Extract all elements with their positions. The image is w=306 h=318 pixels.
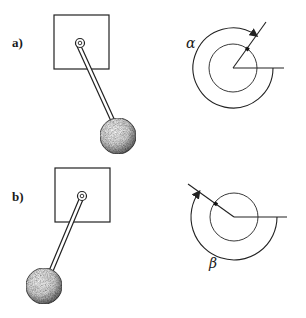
pendulum-b-bob bbox=[26, 268, 62, 304]
panel-a: a) bbox=[12, 15, 136, 154]
angle-beta-symbol: β bbox=[208, 255, 217, 271]
panel-b: b) bbox=[12, 168, 110, 304]
angle-alpha-symbol: α bbox=[186, 35, 196, 51]
angle-b-rod-ray bbox=[188, 184, 234, 217]
pendulum-a-bob bbox=[100, 118, 136, 154]
angle-diagram-b: β bbox=[188, 184, 287, 271]
pendulum-a-rod bbox=[78, 44, 113, 121]
angle-b-arc-arrow bbox=[191, 192, 277, 260]
angle-a-rod-ray bbox=[233, 22, 266, 68]
panel-b-label: b) bbox=[12, 189, 24, 204]
pendulum-b-rod bbox=[51, 197, 82, 271]
angle-diagram-a: α bbox=[186, 22, 284, 108]
panel-a-label: a) bbox=[12, 35, 23, 50]
pendulum-angle-diagram: a) α b) bbox=[0, 0, 306, 318]
pendulum-a-pivot bbox=[76, 39, 85, 48]
pendulum-b-pivot bbox=[78, 192, 87, 201]
